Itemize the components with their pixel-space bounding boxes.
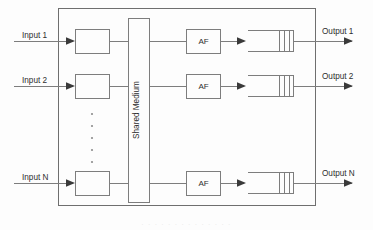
output-label-2: Output 2 xyxy=(322,72,354,81)
ellipsis-dot-4 xyxy=(91,149,93,151)
output-label-n: Output N xyxy=(322,169,355,178)
row-1: AF xyxy=(14,30,353,54)
figure-caption-remnant: · · · · · · · · · · · · · · xyxy=(0,220,373,230)
input-port-box-n xyxy=(76,172,110,196)
row-2: AF xyxy=(14,75,353,99)
input-label-2: Input 2 xyxy=(22,76,47,85)
input-arrow-2 xyxy=(66,82,75,90)
buffer-arrow-n xyxy=(237,179,246,187)
vertical-ellipsis xyxy=(91,113,93,163)
ellipsis-dot-5 xyxy=(91,161,93,163)
af-label-2: AF xyxy=(198,82,208,91)
output-label-1: Output 1 xyxy=(322,27,354,36)
figure-root: AF AF xyxy=(0,0,373,230)
buffer-arrow-2 xyxy=(237,82,246,90)
input-arrow-n xyxy=(66,179,75,187)
af-label-n: AF xyxy=(198,179,208,188)
ellipsis-dot-3 xyxy=(91,137,93,139)
ellipsis-dot-1 xyxy=(91,113,93,115)
row-n: AF xyxy=(14,172,353,196)
output-arrow-1 xyxy=(344,37,353,45)
input-port-box-2 xyxy=(76,75,110,99)
shared-medium-label: Shared Medium xyxy=(132,81,141,139)
input-label-n: Input N xyxy=(22,173,48,182)
af-label-1: AF xyxy=(198,37,208,46)
ellipsis-dot-2 xyxy=(91,125,93,127)
buffer-arrow-1 xyxy=(237,37,246,45)
output-arrow-n xyxy=(344,179,353,187)
block-diagram-canvas: AF AF xyxy=(0,0,373,230)
output-arrow-2 xyxy=(344,82,353,90)
input-arrow-1 xyxy=(66,37,75,45)
input-label-1: Input 1 xyxy=(22,31,47,40)
input-port-box-1 xyxy=(76,30,110,54)
